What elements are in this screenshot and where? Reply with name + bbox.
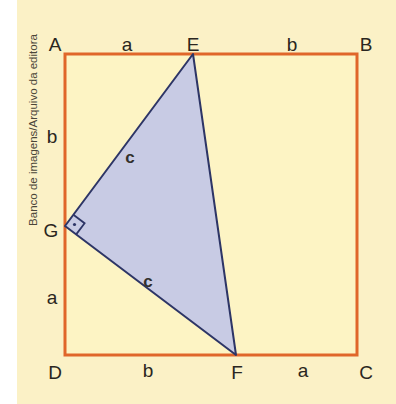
segment-label-gf: c xyxy=(143,273,152,290)
segment-label-fc: a xyxy=(298,361,309,380)
vertex-label-b: B xyxy=(360,35,373,54)
vertex-label-f: F xyxy=(231,363,243,382)
vertex-label-d: D xyxy=(48,363,62,382)
segment-label-ae: a xyxy=(122,35,133,54)
segment-label-gd: a xyxy=(47,288,58,307)
vertex-label-g: G xyxy=(44,221,59,240)
segment-label-ag: b xyxy=(47,127,58,146)
segment-label-ge: c xyxy=(125,149,134,166)
segment-label-df: b xyxy=(143,361,154,380)
vertex-label-c: C xyxy=(359,363,373,382)
vertex-label-e: E xyxy=(187,35,200,54)
segment-label-eb: b xyxy=(287,35,298,54)
geometry-figure xyxy=(0,0,396,404)
vertex-label-a: A xyxy=(49,35,62,54)
image-credit: Banco de imagens/Arquivo da editora xyxy=(27,34,39,226)
